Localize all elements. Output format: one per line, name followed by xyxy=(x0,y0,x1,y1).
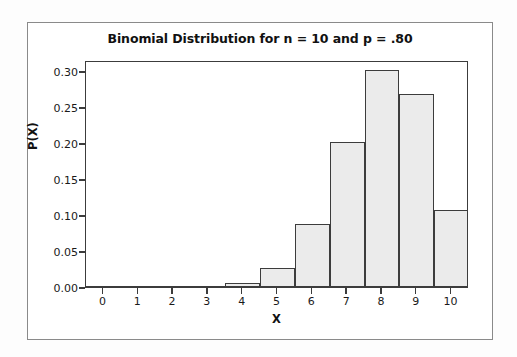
bar-x-9 xyxy=(399,94,434,287)
x-tick-label-6: 6 xyxy=(308,295,315,308)
x-tick-label-5: 5 xyxy=(273,295,280,308)
x-tick-label-3: 3 xyxy=(203,295,210,308)
bar-x-10 xyxy=(434,210,467,287)
x-tick-label-10: 10 xyxy=(444,295,458,308)
x-tick-mark-10 xyxy=(450,288,451,294)
bar-x-7 xyxy=(330,142,365,287)
x-tick-label-1: 1 xyxy=(134,295,141,308)
bar-x-4 xyxy=(225,283,260,287)
x-tick-label-8: 8 xyxy=(377,295,384,308)
x-tick-mark-5 xyxy=(276,288,277,294)
x-axis-tick-labels: 012345678910 xyxy=(85,295,468,311)
x-tick-label-9: 9 xyxy=(412,295,419,308)
x-tick-label-4: 4 xyxy=(238,295,245,308)
figure-canvas: Binomial Distribution for n = 10 and p =… xyxy=(0,0,517,357)
x-tick-mark-1 xyxy=(137,288,138,294)
x-tick-mark-6 xyxy=(311,288,312,294)
x-tick-mark-4 xyxy=(241,288,242,294)
x-tick-mark-2 xyxy=(171,288,172,294)
x-axis-title: X xyxy=(85,312,468,326)
x-tick-mark-8 xyxy=(380,288,381,294)
y-axis-tick-marks xyxy=(0,61,90,288)
bar-x-0 xyxy=(86,286,121,287)
plot-area xyxy=(85,61,468,288)
bar-x-1 xyxy=(121,286,156,287)
x-tick-mark-0 xyxy=(102,288,103,294)
bars-container xyxy=(86,62,467,287)
x-tick-label-0: 0 xyxy=(99,295,106,308)
bar-x-2 xyxy=(156,286,191,287)
x-tick-label-7: 7 xyxy=(343,295,350,308)
bar-x-8 xyxy=(365,70,400,287)
x-tick-mark-3 xyxy=(206,288,207,294)
x-tick-label-2: 2 xyxy=(169,295,176,308)
x-tick-mark-9 xyxy=(415,288,416,294)
x-tick-mark-7 xyxy=(345,288,346,294)
bar-x-6 xyxy=(295,224,330,287)
chart-title: Binomial Distribution for n = 10 and p =… xyxy=(27,31,493,46)
bar-x-5 xyxy=(260,268,295,287)
bar-x-3 xyxy=(190,286,225,287)
